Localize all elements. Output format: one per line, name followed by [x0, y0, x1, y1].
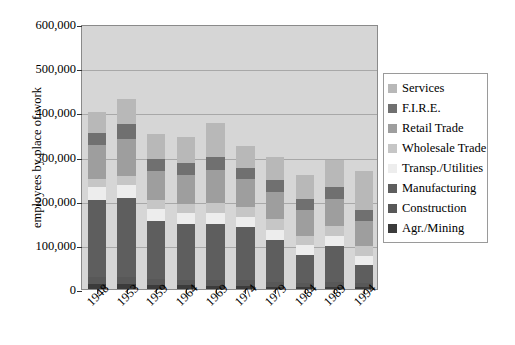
y-tick-label: 300,000 — [4, 150, 76, 165]
bar-segment — [147, 159, 165, 171]
y-tick-label: 600,000 — [4, 18, 76, 33]
y-tickmark — [77, 203, 82, 204]
bar-segment — [236, 217, 254, 227]
bar-1984 — [296, 175, 314, 289]
legend-item-wholesale-trade[interactable]: Wholesale Trade — [388, 138, 483, 158]
bar-1959 — [147, 134, 165, 289]
bar-segment — [296, 199, 314, 210]
bar-segment — [206, 170, 224, 203]
legend-item-label: Manufacturing — [402, 181, 476, 196]
bar-segment — [206, 157, 224, 170]
bar-segment — [206, 123, 224, 157]
bar-segment — [88, 187, 106, 200]
chart-legend: ServicesF.I.R.E.Retail TradeWholesale Tr… — [383, 73, 488, 243]
bar-segment — [147, 200, 165, 209]
bar-segment — [117, 99, 135, 124]
bar-segment — [296, 236, 314, 246]
legend-swatch-icon — [388, 224, 397, 233]
bar-segment — [296, 245, 314, 254]
legend-item-label: Agr./Mining — [402, 221, 464, 236]
y-tick-label: 400,000 — [4, 106, 76, 121]
bar-segment — [147, 209, 165, 220]
legend-item-retail-trade[interactable]: Retail Trade — [388, 118, 483, 138]
bar-segment — [266, 192, 284, 219]
bar-segment — [266, 157, 284, 181]
bar-segment — [325, 226, 343, 237]
gridline — [82, 70, 377, 71]
bar-segment — [88, 112, 106, 133]
bar-segment — [236, 207, 254, 217]
legend-item-label: Wholesale Trade — [402, 141, 486, 156]
legend-item-manufacturing[interactable]: Manufacturing — [388, 178, 483, 198]
bar-segment — [117, 139, 135, 176]
y-tickmark — [77, 70, 82, 71]
legend-item-label: Construction — [402, 201, 467, 216]
bar-segment — [266, 230, 284, 240]
legend-swatch-icon — [388, 84, 397, 93]
bar-1974 — [236, 146, 254, 289]
bar-segment — [117, 185, 135, 198]
legend-swatch-icon — [388, 124, 397, 133]
bar-segment — [325, 160, 343, 187]
bar-segment — [177, 224, 195, 280]
bar-1969 — [206, 123, 224, 289]
bar-segment — [206, 213, 224, 224]
bar-segment — [296, 210, 314, 236]
y-tickmark — [77, 26, 82, 27]
y-tick-label: 500,000 — [4, 62, 76, 77]
bar-1979 — [266, 157, 284, 289]
bar-segment — [117, 198, 135, 277]
y-tickmark — [77, 114, 82, 115]
bar-segment — [236, 168, 254, 179]
bar-segment — [117, 124, 135, 139]
bar-1964 — [177, 137, 195, 289]
bar-segment — [117, 176, 135, 185]
bar-segment — [236, 227, 254, 280]
bar-segment — [236, 179, 254, 207]
bar-segment — [88, 133, 106, 145]
bar-segment — [355, 171, 373, 210]
legend-item-agr-mining[interactable]: Agr./Mining — [388, 218, 483, 238]
y-axis-tick-labels: 600,000500,000400,000300,000200,000100,0… — [0, 0, 76, 345]
bar-segment — [147, 221, 165, 279]
legend-swatch-icon — [388, 184, 397, 193]
legend-swatch-icon — [388, 164, 397, 173]
stacked-bar-chart: employees by place of work 600,000500,00… — [0, 0, 515, 345]
bar-segment — [177, 175, 195, 204]
bar-segment — [88, 179, 106, 187]
bar-segment — [355, 256, 373, 265]
bar-segment — [88, 145, 106, 179]
bar-segment — [325, 187, 343, 199]
bar-1953 — [117, 99, 135, 289]
bar-segment — [325, 236, 343, 245]
bar-segment — [177, 163, 195, 175]
bar-1948 — [88, 112, 106, 289]
legend-item-f-i-r-e[interactable]: F.I.R.E. — [388, 98, 483, 118]
bar-segment — [88, 200, 106, 277]
legend-item-transp-utilities[interactable]: Transp./Utilities — [388, 158, 483, 178]
bar-segment — [355, 221, 373, 247]
legend-item-services[interactable]: Services — [388, 78, 483, 98]
legend-swatch-icon — [388, 144, 397, 153]
bar-segment — [206, 203, 224, 213]
bar-segment — [355, 246, 373, 256]
bar-segment — [325, 246, 343, 282]
plot-area — [81, 25, 378, 290]
bar-segment — [355, 265, 373, 284]
bar-segment — [355, 210, 373, 221]
legend-swatch-icon — [388, 104, 397, 113]
legend-item-construction[interactable]: Construction — [388, 198, 483, 218]
bar-segment — [177, 213, 195, 224]
bar-segment — [206, 224, 224, 280]
legend-item-label: F.I.R.E. — [402, 101, 441, 116]
y-tick-label: 100,000 — [4, 238, 76, 253]
bar-segment — [147, 171, 165, 200]
bar-1994 — [355, 171, 373, 289]
legend-item-label: Retail Trade — [402, 121, 463, 136]
bar-segment — [266, 180, 284, 191]
bar-1989 — [325, 160, 343, 289]
bar-segment — [236, 146, 254, 168]
bar-segment — [325, 199, 343, 226]
bar-segment — [147, 134, 165, 160]
legend-item-label: Transp./Utilities — [402, 161, 483, 176]
